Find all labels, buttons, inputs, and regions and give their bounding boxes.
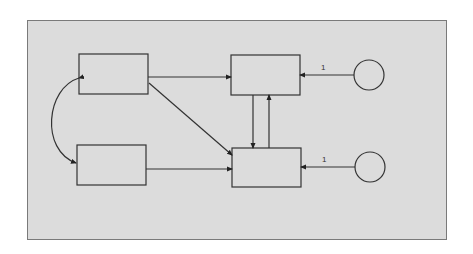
error-circle-bottom[interactable]	[355, 152, 385, 182]
box-top-right[interactable]	[231, 55, 300, 95]
box-bottom-right[interactable]	[232, 148, 301, 187]
edge-tl-br[interactable]	[149, 83, 232, 155]
error-circle-top[interactable]	[354, 60, 384, 90]
box-bottom-left[interactable]	[77, 145, 146, 185]
covariance-curve[interactable]	[52, 78, 79, 163]
box-top-left[interactable]	[79, 54, 148, 94]
edge-label-error-bottom: 1	[322, 155, 327, 164]
edge-label-error-top: 1	[321, 63, 326, 72]
path-diagram: 1 1	[0, 0, 473, 254]
